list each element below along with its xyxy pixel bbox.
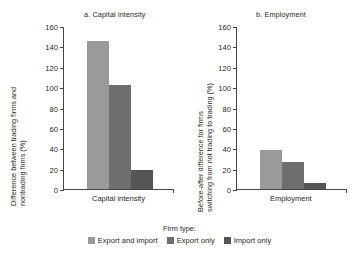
panel-b-ytick-label-80: 80: [223, 104, 231, 113]
panel-a-bar-export-and-import: [87, 41, 109, 189]
panel-b-title: b. Employment: [256, 10, 306, 19]
legend-item-export-and-import: Export and import: [88, 236, 158, 245]
panel-a-bar-import-only: [131, 170, 153, 189]
panel-b-bar-export-and-import: [260, 150, 282, 189]
panel-b-x-axis-end-tick: [346, 189, 347, 193]
panel-b-ytick-label-0: 0: [227, 186, 231, 195]
panel-b-ytick-label-160: 160: [218, 23, 231, 32]
panel-b-ytick-label-60: 60: [223, 124, 231, 133]
legend-label-import-only: Import only: [234, 236, 272, 245]
panel-b-ytick-label-100: 100: [218, 84, 231, 93]
panel-a-ytick-label-40: 40: [50, 145, 58, 154]
panel-a-bars: [65, 27, 173, 189]
legend-swatch-icon-export-and-import: [88, 237, 95, 244]
legend-item-import-only: Import only: [224, 236, 272, 245]
panel-a-category-label: Capital intensity: [92, 194, 145, 203]
legend-title: Firm type:: [0, 224, 359, 233]
panel-a-ytick-label-120: 120: [45, 63, 58, 72]
panel-a-plot-area: 0 20 40 60 80 100 120 140 160: [63, 27, 173, 190]
panel-a-ytick-label-20: 20: [50, 165, 58, 174]
panel-b-ytick-label-120: 120: [218, 63, 231, 72]
panel-a-bar-group: [87, 41, 153, 189]
panel-a-ytick-label-60: 60: [50, 124, 58, 133]
panel-a-ytick-label-160: 160: [45, 23, 58, 32]
panel-b-y-axis-title-line2: switching from not trading to trading (%…: [205, 83, 214, 212]
legend-swatch-icon-import-only: [224, 237, 231, 244]
panel-b-bar-export-only: [282, 162, 304, 190]
panel-a-y-axis-title-line1: Difference between trading firms and: [9, 87, 18, 206]
panel-b-bar-group: [260, 150, 326, 189]
panel-a-y-axis-title: Difference between trading firms and non…: [9, 87, 27, 206]
legend-label-export-and-import: Export and import: [98, 236, 158, 245]
panel-a-bar-export-only: [109, 85, 131, 189]
legend-label-export-only: Export only: [177, 236, 215, 245]
panel-a-x-axis-end-tick: [173, 189, 174, 193]
legend-item-export-only: Export only: [167, 236, 215, 245]
panel-a-ytick-label-140: 140: [45, 43, 58, 52]
panel-b-y-axis-title-line1: Before-after difference for firms: [196, 111, 205, 212]
panel-b-category-label: Employment: [270, 194, 312, 203]
legend-swatch-icon-export-only: [167, 237, 174, 244]
panel-b-bar-import-only: [304, 183, 326, 189]
panel-b-ytick-label-20: 20: [223, 165, 231, 174]
panel-a-title: a. Capital intensity: [84, 10, 146, 19]
legend-items: Export and import Export only Import onl…: [0, 236, 359, 245]
panel-a-ytick-label-0: 0: [54, 186, 58, 195]
legend: Firm type: Export and import Export only…: [0, 224, 359, 245]
panel-b-y-axis-title: Before-after difference for firms switch…: [196, 83, 214, 212]
panel-a-ytick-label-80: 80: [50, 104, 58, 113]
chart-figure: a. Capital intensity Difference between …: [0, 0, 359, 259]
panel-a-ytick-label-100: 100: [45, 84, 58, 93]
panel-b-bars: [238, 27, 346, 189]
panel-b-plot-area: 0 20 40 60 80 100 120 140 160: [236, 27, 346, 190]
panel-a-y-axis-title-line2: nontrading firms (%): [18, 87, 27, 206]
panel-b-ytick-label-140: 140: [218, 43, 231, 52]
panel-b-ytick-label-40: 40: [223, 145, 231, 154]
